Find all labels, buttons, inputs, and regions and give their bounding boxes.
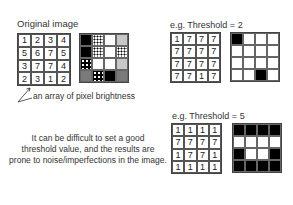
pixel-cell — [92, 58, 104, 70]
pixel-cell — [104, 46, 116, 58]
pixel-cell — [92, 34, 104, 46]
pixel-cell — [243, 57, 255, 69]
pixel-cell — [267, 57, 279, 69]
threshold-5-value-grid: 1111777717711111 — [171, 123, 222, 174]
grid-cell: 2 — [18, 72, 31, 85]
grid-cell: 7 — [183, 58, 195, 70]
pixel-cell — [92, 70, 104, 82]
grid-cell: 7 — [196, 45, 208, 57]
grid-cell: 1 — [196, 70, 208, 82]
grid-cell: 3 — [31, 72, 44, 85]
pixel-cell — [269, 124, 281, 136]
grid-cell: 7 — [183, 70, 195, 82]
pixel-cell — [269, 136, 281, 148]
grid-cell: 4 — [57, 60, 70, 73]
grid-cell: 1 — [184, 124, 196, 136]
grid-cell: 1 — [18, 34, 31, 47]
pixel-cell — [233, 148, 245, 160]
grid-cell: 7 — [31, 60, 44, 73]
grid-cell: 1 — [209, 161, 221, 173]
grid-cell: 7 — [184, 136, 196, 148]
grid-cell: 7 — [171, 58, 183, 70]
pixel-cell — [269, 148, 281, 160]
pixel-cell — [257, 148, 269, 160]
pixel-cell — [116, 46, 128, 58]
pixel-cell — [243, 69, 255, 81]
grid-cell: 5 — [57, 47, 70, 60]
pixel-cell — [257, 160, 269, 172]
grid-cell: 7 — [196, 58, 208, 70]
pixel-cell — [255, 69, 267, 81]
grid-cell: 3 — [18, 60, 31, 73]
grid-cell: 2 — [57, 72, 70, 85]
grid-cell: 7 — [209, 136, 221, 148]
pixel-cell — [267, 45, 279, 57]
grid-cell: 7 — [197, 136, 209, 148]
grid-cell: 7 — [183, 45, 195, 57]
grid-cell: 7 — [208, 45, 220, 57]
threshold-5-binary-grid — [232, 123, 282, 173]
pixel-cell — [269, 160, 281, 172]
grid-cell: 1 — [197, 161, 209, 173]
grid-cell: 1 — [184, 161, 196, 173]
note-line-2: threshold value, and the results are — [2, 144, 174, 155]
grid-cell: 7 — [196, 33, 208, 45]
pixel-cell — [104, 58, 116, 70]
original-image-title: Original image — [17, 18, 78, 29]
original-pixel-image — [79, 33, 129, 83]
threshold-5-title: e.g. Threshold = 5 — [172, 111, 245, 121]
pixel-cell — [80, 34, 92, 46]
pixel-cell — [233, 124, 245, 136]
grid-cell: 1 — [44, 72, 57, 85]
grid-cell: 1 — [209, 124, 221, 136]
threshold-2-binary-grid — [230, 32, 280, 82]
note-line-1: It can be difficult to set a good — [2, 133, 174, 144]
grid-cell: 7 — [171, 45, 183, 57]
pixel-cell — [267, 33, 279, 45]
pixel-cell — [80, 58, 92, 70]
pixel-cell — [92, 46, 104, 58]
grid-cell: 6 — [31, 47, 44, 60]
grid-cell: 5 — [18, 47, 31, 60]
grid-cell: 1 — [197, 124, 209, 136]
grid-cell: 4 — [57, 34, 70, 47]
grid-cell: 7 — [44, 47, 57, 60]
pixel-cell — [245, 136, 257, 148]
grid-cell: 7 — [208, 70, 220, 82]
grid-cell: 7 — [171, 70, 183, 82]
pixel-cell — [255, 33, 267, 45]
pixel-value-grid: 1234567537742312 — [17, 33, 71, 86]
pixel-cell — [257, 124, 269, 136]
pixel-cell — [80, 46, 92, 58]
threshold-2-value-grid: 1777777777777717 — [170, 32, 221, 83]
pixel-cell — [255, 57, 267, 69]
grid-cell: 2 — [31, 34, 44, 47]
grid-cell: 1 — [171, 33, 183, 45]
pixel-cell — [80, 70, 92, 82]
pixel-cell — [104, 70, 116, 82]
pixel-cell — [116, 58, 128, 70]
pixel-cell — [231, 45, 243, 57]
threshold-2-title: e.g. Threshold = 2 — [170, 20, 243, 30]
pixel-cell — [233, 160, 245, 172]
pixel-cell — [245, 148, 257, 160]
grid-cell: 7 — [44, 60, 57, 73]
pixel-cell — [243, 45, 255, 57]
pixel-cell — [267, 69, 279, 81]
note-line-3: prone to noise/imperfections in the imag… — [2, 155, 174, 166]
annotation-label: an array of pixel brightness — [33, 91, 135, 101]
pixel-cell — [243, 33, 255, 45]
grid-cell: 1 — [209, 149, 221, 161]
pixel-cell — [116, 34, 128, 46]
pixel-cell — [231, 69, 243, 81]
pixel-cell — [245, 124, 257, 136]
grid-cell: 7 — [197, 149, 209, 161]
grid-cell: 7 — [184, 149, 196, 161]
grid-cell: 7 — [208, 33, 220, 45]
pixel-cell — [231, 33, 243, 45]
pixel-cell — [116, 70, 128, 82]
pixel-cell — [233, 136, 245, 148]
grid-cell: 3 — [44, 34, 57, 47]
threshold-note: It can be difficult to set a good thresh… — [2, 133, 174, 166]
pixel-cell — [104, 34, 116, 46]
